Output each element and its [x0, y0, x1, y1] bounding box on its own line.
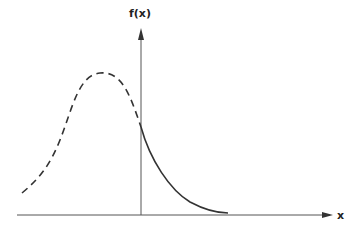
x-axis-arrow-icon — [322, 212, 333, 218]
y-axis-arrow-icon — [138, 28, 144, 40]
function-diagram: f(x) x — [0, 0, 358, 232]
solid-decay-curve — [141, 127, 228, 213]
dashed-hypothetical-curve — [22, 73, 141, 193]
y-axis-label: f(x) — [129, 7, 151, 20]
x-axis-label: x — [337, 209, 344, 222]
